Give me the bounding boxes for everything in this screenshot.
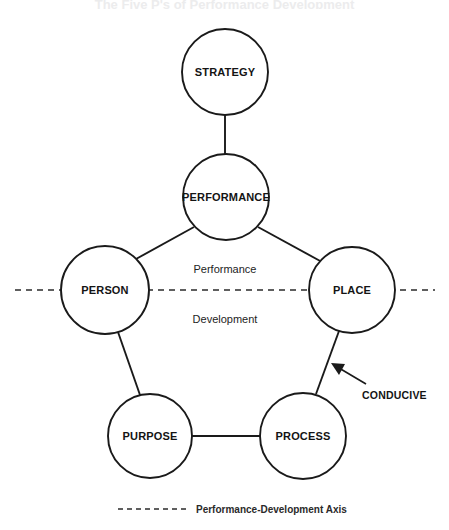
edge-performance-place — [258, 227, 322, 262]
node-purpose-label: PURPOSE — [123, 430, 178, 442]
node-strategy[interactable]: STRATEGY — [182, 29, 268, 115]
node-person[interactable]: PERSON — [61, 246, 149, 334]
node-person-label: PERSON — [81, 284, 128, 296]
node-process[interactable]: PROCESS — [260, 393, 346, 479]
node-strategy-label: STRATEGY — [195, 66, 256, 78]
node-purpose[interactable]: PURPOSE — [108, 394, 192, 478]
edge-person-purpose — [118, 332, 140, 395]
legend-label: Performance-Development Axis — [196, 504, 347, 515]
node-process-label: PROCESS — [276, 430, 331, 442]
conducive-callout: CONDUCIVE — [331, 363, 427, 401]
edge-performance-person — [136, 227, 194, 259]
axis-upper-label: Performance — [194, 263, 257, 275]
cropped-header-text: The Five P's of Performance Development — [0, 0, 449, 9]
node-place-label: PLACE — [333, 284, 371, 296]
axis-lower-label: Development — [193, 313, 258, 325]
diagram-root: The Five P's of Performance Development … — [0, 0, 449, 530]
axis-legend: Performance-Development Axis — [118, 504, 347, 515]
node-performance[interactable]: PERFORMANCE — [182, 154, 270, 240]
conducive-label: CONDUCIVE — [362, 389, 427, 401]
pentagon-diagram-canvas: STRATEGY PERFORMANCE PERSON PLACE PURPOS… — [0, 0, 449, 530]
edge-place-process — [316, 331, 339, 394]
conducive-arrow-head — [331, 363, 345, 375]
node-performance-label: PERFORMANCE — [182, 191, 270, 203]
node-place[interactable]: PLACE — [309, 247, 395, 333]
conducive-arrow-shaft — [339, 368, 366, 384]
